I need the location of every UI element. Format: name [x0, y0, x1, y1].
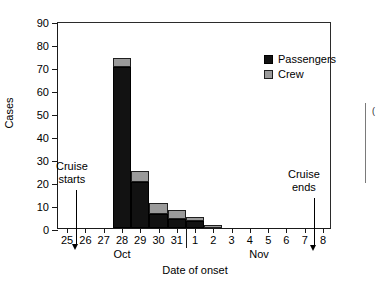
x-tick-label: 1 [192, 235, 198, 246]
x-tick-label: 28 [116, 235, 128, 246]
annotation-cruise-ends: Cruise ends [288, 168, 320, 193]
page-column-rule [365, 103, 366, 183]
y-tick-label: 0 [23, 225, 49, 236]
annotation-arrow-head [72, 244, 78, 250]
annotation-arrow-shaft [314, 198, 315, 247]
annotation-cruise-ends-line2: ends [288, 181, 320, 194]
y-tick-label: 70 [23, 64, 49, 75]
x-tick-label: 6 [283, 235, 289, 246]
annotation-cruise-starts-line1: Cruise [56, 160, 88, 173]
chart-legend: Passengers Crew [264, 53, 336, 83]
annotation-cruise-starts-line2: starts [56, 173, 88, 186]
annotation-arrow-shaft [76, 190, 77, 246]
plot-area: 0 10 20 30 40 50 60 70 80 90 25 26 27 28… [57, 22, 331, 229]
y-tick-label: 80 [23, 41, 49, 52]
legend-label-passengers: Passengers [278, 54, 336, 65]
y-tick-label: 10 [23, 202, 49, 213]
annotation-cruise-starts: Cruise starts [56, 160, 88, 185]
x-axis-title: Date of onset [162, 265, 227, 276]
month-label-nov: Nov [249, 249, 269, 260]
bar-segment-passengers [131, 182, 149, 228]
x-tick-label: 5 [265, 235, 271, 246]
y-tick-label: 30 [23, 156, 49, 167]
legend-label-crew: Crew [278, 69, 304, 80]
bar-oct-31 [168, 210, 186, 228]
legend-item-passengers: Passengers [264, 53, 336, 66]
bar-segment-crew [168, 210, 186, 219]
x-tick-label: 27 [98, 235, 110, 246]
annotation-cruise-ends-line1: Cruise [288, 168, 320, 181]
legend-swatch-passengers [264, 55, 273, 64]
bar-segment-passengers [168, 219, 186, 228]
bar-segment-crew [113, 58, 131, 67]
x-tick-label: 4 [247, 235, 253, 246]
y-tick-label: 20 [23, 179, 49, 190]
y-axis-title: Cases [4, 97, 15, 128]
bar-nov-01 [186, 217, 204, 229]
y-tick-label: 90 [23, 18, 49, 29]
y-tick-label: 60 [23, 87, 49, 98]
cropped-adjacent-text: ( [372, 105, 379, 180]
x-tick-label: 8 [320, 235, 326, 246]
x-tick-label: 7 [302, 235, 308, 246]
annotation-arrow-head [310, 245, 316, 251]
bar-segment-crew [131, 171, 149, 183]
legend-item-crew: Crew [264, 68, 336, 81]
x-tick-label: 31 [171, 235, 183, 246]
y-tick-label: 40 [23, 133, 49, 144]
bar-segment-passengers [149, 214, 167, 228]
bar-segment-crew [204, 225, 222, 228]
x-tick-label: 30 [152, 235, 164, 246]
bar-oct-30 [149, 203, 167, 228]
month-label-oct: Oct [113, 249, 130, 260]
x-tick-label: 3 [229, 235, 235, 246]
y-tick-label: 50 [23, 110, 49, 121]
month-divider [186, 228, 187, 248]
x-tick-label: 2 [210, 235, 216, 246]
bar-segment-passengers [186, 221, 204, 228]
legend-swatch-crew [264, 70, 273, 79]
bar-segment-crew [149, 203, 167, 215]
x-tick-label: 26 [79, 235, 91, 246]
bar-oct-28 [113, 58, 131, 228]
cropped-text-line: ( [372, 105, 379, 118]
bar-nov-02 [204, 225, 222, 228]
chart-figure: Cases 0 10 20 30 40 50 60 70 80 90 25 26… [0, 0, 379, 286]
x-tick-label: 29 [134, 235, 146, 246]
bar-segment-passengers [113, 67, 131, 228]
bar-oct-29 [131, 171, 149, 229]
